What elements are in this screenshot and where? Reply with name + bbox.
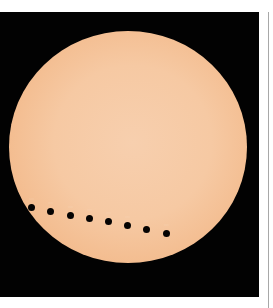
venus-position-dot xyxy=(67,212,74,219)
timestamp-label: ··:·· xyxy=(48,202,53,205)
photo-frame: ··:····:····:····:····:····:····:····:·· xyxy=(0,12,259,297)
venus-position-dot xyxy=(124,222,131,229)
venus-position-dot xyxy=(105,218,112,225)
venus-position-dot xyxy=(28,204,35,211)
timestamp-label: ··:·· xyxy=(87,209,92,212)
venus-position-dot xyxy=(163,230,170,237)
venus-position-dot xyxy=(47,208,54,215)
venus-position-dot xyxy=(143,226,150,233)
timestamp-label: ··:·· xyxy=(29,198,34,201)
timestamp-label: ··:·· xyxy=(106,212,111,215)
timestamp-label: ··:·· xyxy=(164,224,169,227)
side-divider xyxy=(268,12,269,308)
timestamp-label: ··:·· xyxy=(68,206,73,209)
timestamp-label: ··:·· xyxy=(125,216,130,219)
timestamp-label: ··:·· xyxy=(144,220,149,223)
venus-position-dot xyxy=(86,215,93,222)
